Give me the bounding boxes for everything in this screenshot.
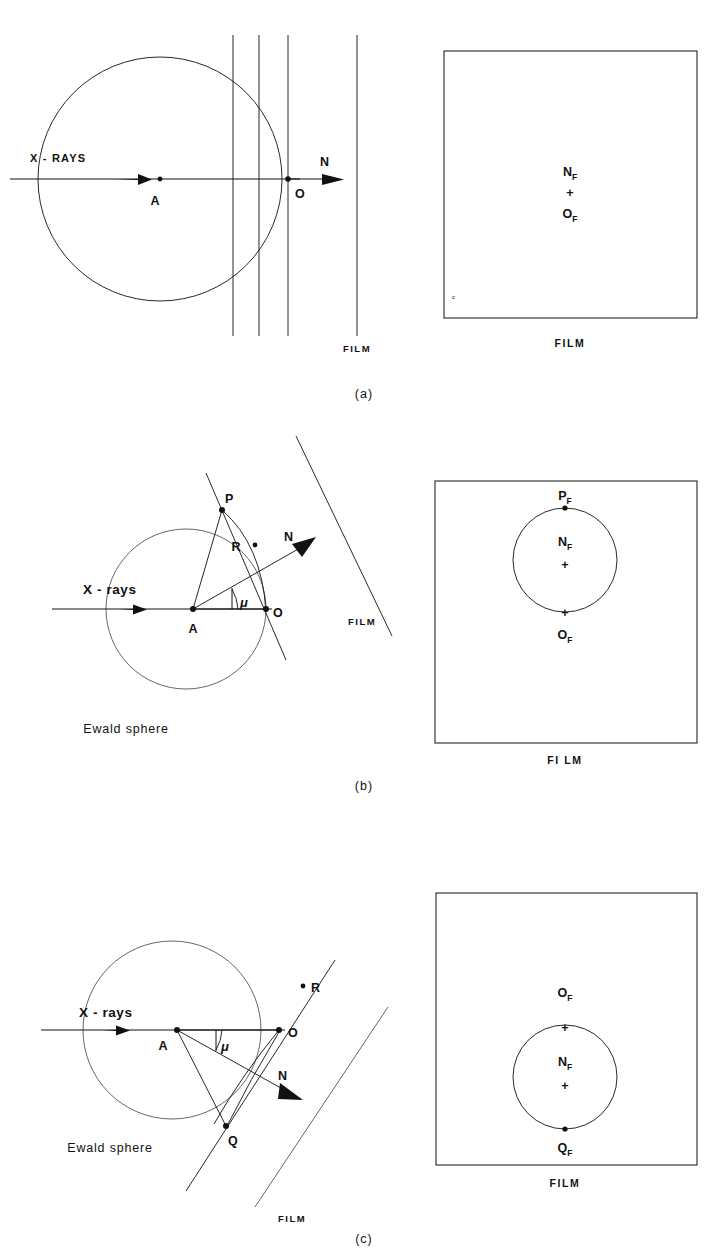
panel-caption-a: (a): [355, 387, 373, 401]
sphere-center-point-a-c: [174, 1027, 180, 1033]
panel-b-reciprocal-diagram: X - rays A O P R N μ Ewald sphere FILM: [52, 436, 392, 736]
panel-b-film-pattern: PF NF + + OF FI LM: [435, 481, 697, 766]
panel-a-film-pattern: c NF + OF FILM: [444, 51, 697, 349]
panel-c-reciprocal-diagram: X - rays A O R Q N μ Ewald sphere FILM: [41, 941, 388, 1224]
normal-arrowhead-c: [278, 1083, 303, 1100]
film-point-pf-marker: [562, 505, 567, 510]
corner-artifact-a: c: [452, 294, 455, 300]
film-center-cross-c: +: [561, 1079, 568, 1093]
label-a-center-c: A: [158, 1039, 167, 1053]
label-o-origin-c: O: [288, 1026, 298, 1040]
film-label-b-right: FI LM: [547, 754, 582, 766]
reflection-point-r-b: [253, 543, 258, 548]
label-n-normal-a: N: [320, 155, 329, 169]
label-r-reflection-b: R: [231, 540, 240, 554]
panel-c-film-pattern: OF + NF + QF FILM: [436, 893, 697, 1189]
film-mark-qf-c: QF: [558, 1141, 573, 1158]
label-n-normal-b: N: [284, 530, 293, 544]
film-mark-of-c: OF: [558, 986, 573, 1003]
film-label-b-left: FILM: [348, 616, 376, 627]
film-plate-line-c: [255, 1007, 388, 1207]
lattice-plane-trace-b: [206, 473, 286, 660]
film-mark-pf-b: PF: [558, 489, 572, 506]
film-label-c-left: FILM: [278, 1213, 306, 1224]
label-n-normal-c: N: [278, 1069, 287, 1083]
film-label-a-right: FILM: [555, 337, 586, 349]
panel-c: X - rays A O R Q N μ Ewald sphere FILM O…: [41, 893, 697, 1246]
label-o-origin-b: O: [273, 606, 283, 620]
xray-beam-label-b: X - rays: [83, 582, 137, 597]
reciprocal-lattice-row-arc-c: [227, 1032, 279, 1126]
normal-arrowhead: [322, 174, 344, 185]
film-square-a: [444, 51, 697, 318]
panel-a: X - RAYS A O N FILM c NF + OF FILM (a): [10, 35, 697, 401]
crystallography-figure: X - RAYS A O N FILM c NF + OF FILM (a): [0, 0, 714, 1255]
film-plate-line-b: [296, 436, 392, 636]
film-mark-nf-c: NF: [558, 1055, 572, 1072]
film-mark-center-cross-a: +: [566, 186, 573, 200]
xray-beam-label-a: X - RAYS: [30, 152, 86, 164]
reciprocal-origin-point-o-c: [276, 1027, 282, 1033]
label-mu-angle-b: μ: [239, 595, 248, 610]
label-a-center-b: A: [188, 622, 197, 636]
angle-arc-mu-b: [232, 589, 238, 609]
film-center-cross-b: +: [561, 558, 568, 572]
label-mu-angle-c: μ: [220, 1039, 229, 1054]
label-o-origin-a: O: [295, 187, 305, 201]
reciprocal-node-point-q: [223, 1123, 229, 1129]
film-origin-cross-b: +: [561, 606, 568, 620]
vector-a-to-p: [193, 510, 222, 609]
label-r-reflection-c: R: [311, 981, 320, 995]
label-q-node-c: Q: [228, 1134, 238, 1148]
label-a-center: A: [150, 194, 159, 208]
sphere-center-point-a: [158, 177, 163, 182]
panel-a-reciprocal-diagram: X - RAYS A O N FILM: [10, 35, 371, 354]
panel-b: X - rays A O P R N μ Ewald sphere FILM P…: [52, 436, 697, 793]
figure-root: X - RAYS A O N FILM c NF + OF FILM (a): [0, 0, 714, 1255]
ewald-sphere-label-c: Ewald sphere: [67, 1141, 152, 1155]
film-label-a-left: FILM: [343, 343, 371, 354]
film-mark-of-b: OF: [558, 628, 573, 645]
film-label-c-right: FILM: [550, 1177, 581, 1189]
xray-beam-label-c: X - rays: [79, 1005, 133, 1020]
reciprocal-node-point-p: [219, 507, 225, 513]
sphere-center-point-a-b: [190, 606, 196, 612]
reciprocal-origin-point-o-b: [263, 606, 269, 612]
label-p-node-b: P: [225, 492, 233, 506]
normal-arrowhead-b: [292, 537, 316, 557]
panel-caption-b: (b): [355, 779, 373, 793]
panel-caption-c: (c): [355, 1232, 373, 1246]
film-mark-of-a: OF: [563, 207, 578, 224]
film-mark-nf-a: NF: [563, 165, 577, 182]
film-point-qf-marker: [562, 1126, 567, 1131]
ewald-sphere-label-b: Ewald sphere: [83, 722, 168, 736]
diffraction-circle-c: [513, 1025, 617, 1129]
film-origin-cross-c: +: [561, 1021, 568, 1035]
film-mark-nf-b: NF: [558, 535, 572, 552]
reflection-point-r-c: [301, 984, 306, 989]
